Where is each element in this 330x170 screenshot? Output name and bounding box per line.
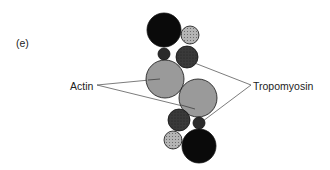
tropomyosin-label: Tropomyosin [253,80,313,92]
actin-label: Actin [70,80,93,92]
large-black-subunit-bottom [182,129,216,163]
tropomyosin-top [176,46,198,68]
tropomyosin-bottom-dotted [168,109,190,131]
actin-subunit-top [146,60,184,98]
light-dotted-subunit-top [181,26,199,44]
small-dark-subunit-top [158,48,170,60]
light-dotted-subunit-bottom [164,131,182,149]
panel-label: (e) [16,37,29,49]
tropomyosin-bottom [193,117,205,129]
large-black-subunit-top [147,13,181,47]
